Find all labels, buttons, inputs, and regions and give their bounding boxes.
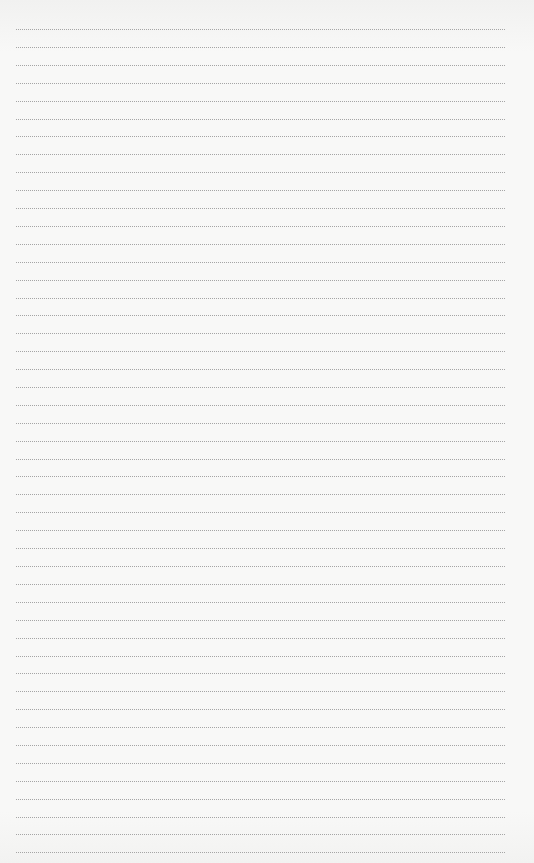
ruled-line [16, 494, 505, 495]
ruled-line [16, 745, 505, 746]
ruled-line [16, 29, 505, 30]
ruled-line [16, 369, 505, 370]
ruled-line [16, 136, 505, 137]
ruled-line [16, 244, 505, 245]
ruled-line [16, 154, 505, 155]
ruled-line [16, 315, 505, 316]
ruled-line [16, 673, 505, 674]
ruled-line [16, 691, 505, 692]
ruled-line [16, 226, 505, 227]
ruled-line [16, 656, 505, 657]
ruled-line [16, 47, 505, 48]
ruled-line [16, 620, 505, 621]
ruled-line [16, 423, 505, 424]
ruled-line [16, 530, 505, 531]
ruled-line [16, 548, 505, 549]
ruled-line [16, 208, 505, 209]
ruled-line [16, 852, 505, 853]
ruled-line [16, 101, 505, 102]
ruled-line [16, 441, 505, 442]
ruled-line [16, 817, 505, 818]
ruled-line [16, 834, 505, 835]
ruled-line [16, 65, 505, 66]
ruled-line [16, 298, 505, 299]
ruled-line [16, 727, 505, 728]
ruled-line [16, 512, 505, 513]
ruled-line [16, 459, 505, 460]
ruled-line [16, 763, 505, 764]
ruled-line [16, 119, 505, 120]
ruled-line [16, 709, 505, 710]
ruled-line [16, 333, 505, 334]
lined-paper-sheet [0, 0, 534, 863]
ruled-line [16, 172, 505, 173]
ruled-line [16, 781, 505, 782]
ruled-line [16, 602, 505, 603]
ruled-line [16, 83, 505, 84]
ruled-line [16, 280, 505, 281]
ruled-line [16, 190, 505, 191]
ruled-line [16, 262, 505, 263]
ruled-line [16, 405, 505, 406]
ruled-line [16, 566, 505, 567]
ruled-line [16, 584, 505, 585]
ruled-line [16, 351, 505, 352]
ruled-line [16, 476, 505, 477]
ruled-line [16, 387, 505, 388]
ruled-line [16, 638, 505, 639]
ruled-line [16, 799, 505, 800]
